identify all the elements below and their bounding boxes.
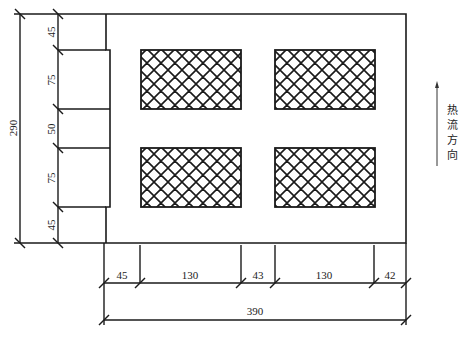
heat-flow-indicator: 热 流 方 向	[435, 81, 458, 166]
heat-flow-char-1: 热	[447, 104, 458, 117]
dim-v-seg-1: 45	[45, 26, 57, 38]
hatched-region-bottom-right	[275, 148, 375, 207]
dim-h-seg-5: 42	[385, 269, 396, 281]
dim-v-seg-4: 75	[45, 172, 57, 184]
plate-outline	[58, 14, 406, 243]
hatched-region-top-left	[141, 50, 241, 109]
heat-flow-char-3: 方	[447, 133, 458, 147]
heat-flow-char-2: 流	[447, 118, 458, 132]
dim-h-seg-4: 130	[316, 269, 333, 281]
dim-h-seg-3: 43	[253, 269, 265, 281]
dim-v-seg-5: 45	[45, 219, 57, 231]
heat-flow-char-4: 向	[447, 148, 458, 162]
hatched-region-top-right	[275, 50, 375, 109]
vertical-dimension-labels: 290 45 75 50 75 45	[7, 26, 57, 231]
dim-v-seg-3: 50	[45, 123, 57, 135]
plate-diagram: 290 45 75 50 75 45 45 130 43 130 42 390	[0, 0, 459, 341]
horizontal-dimension-labels: 45 130 43 130 42 390	[117, 269, 396, 317]
arrow-head-icon	[435, 81, 439, 88]
dim-total-vertical: 290	[7, 119, 19, 136]
dim-total-horizontal: 390	[247, 305, 264, 317]
dim-h-seg-1: 45	[117, 269, 129, 281]
dim-h-seg-2: 130	[182, 269, 199, 281]
dim-v-seg-2: 75	[45, 74, 57, 86]
hatched-region-bottom-left	[141, 148, 241, 207]
